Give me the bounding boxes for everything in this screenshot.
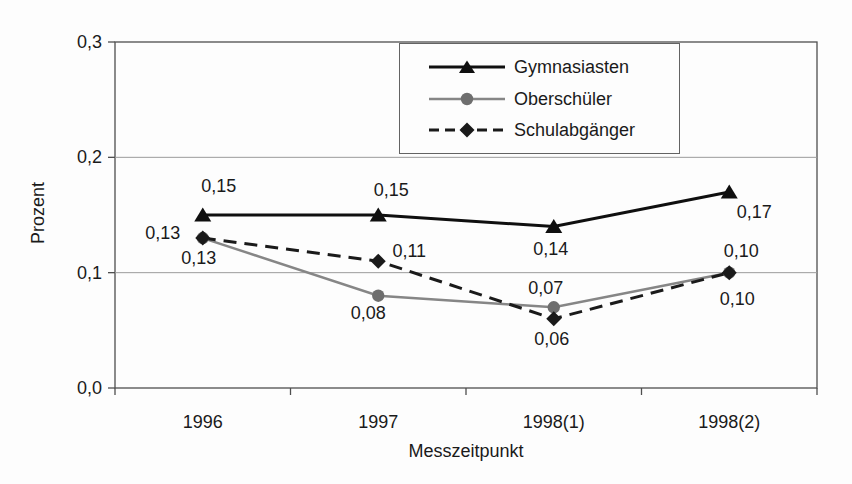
solid-line-triangle-marker-icon	[427, 59, 507, 75]
legend-label-schulabgaenger: Schulabgänger	[514, 121, 635, 139]
chart-figure: 0,00,10,20,3199619971998(1)1998(2)0,150,…	[0, 0, 852, 484]
data-label: 0,13	[145, 223, 180, 243]
x-tick-label: 1998(2)	[698, 412, 760, 432]
data-label: 0,10	[724, 241, 759, 261]
x-tick-label: 1997	[358, 412, 398, 432]
diamond-marker-icon	[546, 311, 561, 326]
series-line-0	[203, 192, 730, 227]
y-tick-label: 0,1	[77, 263, 102, 283]
legend: Gymnasiasten Oberschüler Schulabgänger	[399, 43, 680, 154]
data-label: 0,17	[737, 202, 772, 222]
triangle-marker-icon	[721, 184, 738, 198]
legend-label-oberschueler: Oberschüler	[514, 90, 612, 108]
diamond-marker-icon	[722, 265, 737, 280]
data-label: 0,11	[392, 241, 426, 261]
y-tick-label: 0,3	[77, 32, 102, 52]
diamond-marker-icon	[195, 231, 210, 246]
data-label: 0,08	[351, 303, 386, 323]
x-axis-title: Messzeitpunkt	[408, 441, 523, 462]
circle-marker-icon	[372, 290, 384, 302]
data-label: 0,13	[181, 248, 216, 268]
data-label: 0,06	[534, 329, 569, 349]
legend-label-gymnasiasten: Gymnasiasten	[514, 58, 629, 76]
legend-item-schulabgaenger: Schulabgänger	[427, 121, 679, 139]
y-axis-title: Prozent	[28, 182, 49, 244]
dashed-line-diamond-marker-icon	[427, 122, 507, 138]
legend-item-gymnasiasten: Gymnasiasten	[427, 58, 679, 76]
x-tick-label: 1998(1)	[523, 412, 585, 432]
data-label: 0,15	[201, 176, 236, 196]
legend-item-oberschueler: Oberschüler	[427, 90, 679, 108]
series-line-2	[203, 238, 730, 319]
x-tick-label: 1996	[183, 412, 223, 432]
data-label: 0,07	[528, 278, 563, 298]
y-tick-label: 0,0	[77, 378, 102, 398]
gray-line-circle-marker-icon	[427, 91, 507, 107]
data-label: 0,15	[374, 180, 409, 200]
data-label: 0,10	[720, 289, 755, 309]
diamond-marker-icon	[371, 254, 386, 269]
data-label: 0,14	[533, 239, 568, 259]
y-tick-label: 0,2	[77, 147, 102, 167]
